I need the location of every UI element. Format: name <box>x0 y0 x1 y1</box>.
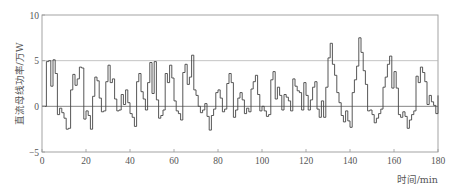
x-tick-label: 140 <box>343 156 358 166</box>
y-axis-ticks: −50510 <box>29 11 45 158</box>
x-tick-label: 40 <box>125 156 135 166</box>
power-step-line <box>42 38 438 130</box>
chart: 020406080100120140160180 −50510 时间/min 直… <box>0 0 460 189</box>
y-tick-label: 10 <box>30 11 40 21</box>
x-axis-title: 时间/min <box>397 174 438 185</box>
x-tick-label: 100 <box>255 156 270 166</box>
x-tick-label: 20 <box>81 156 91 166</box>
x-tick-label: 180 <box>431 156 446 166</box>
x-tick-label: 120 <box>299 156 314 166</box>
x-tick-label: 160 <box>387 156 402 166</box>
x-tick-label: 60 <box>169 156 179 166</box>
x-tick-label: 0 <box>40 156 45 166</box>
x-tick-label: 80 <box>213 156 223 166</box>
data-series-power <box>42 38 438 130</box>
y-tick-label: 5 <box>34 56 39 66</box>
y-tick-label: −5 <box>29 148 39 158</box>
plot-frame <box>42 15 438 152</box>
y-axis-title: 直流母线功率/万W <box>14 42 25 125</box>
y-tick-label: 0 <box>34 102 39 112</box>
